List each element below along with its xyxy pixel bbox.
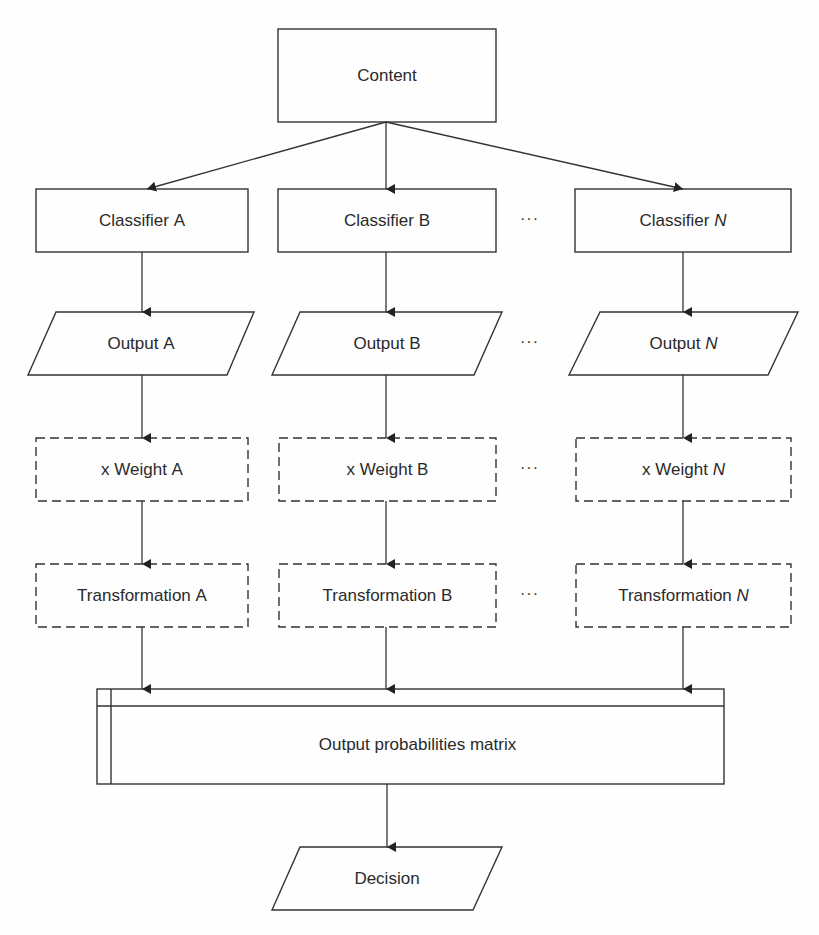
- diagram-shapes: [0, 0, 819, 935]
- ellipsis-classifiers: ···: [520, 210, 539, 228]
- arrow-content-to-n: [386, 122, 683, 189]
- weight-n-box: [576, 438, 791, 501]
- content-box: [278, 29, 496, 122]
- matrix-box: [97, 689, 724, 784]
- transformation-n-box: [576, 564, 791, 627]
- weight-a-box: [36, 438, 248, 501]
- transformation-b-box: [279, 564, 496, 627]
- output-n-shape: [569, 312, 798, 375]
- ellipsis-weights: ···: [520, 459, 539, 477]
- ellipsis-outputs: ···: [520, 333, 539, 351]
- weight-b-box: [279, 438, 496, 501]
- ellipsis-transformations: ···: [520, 585, 539, 603]
- classifier-b-box: [278, 189, 496, 252]
- flow-diagram: Content Classifier A Classifier B Classi…: [0, 0, 819, 935]
- classifier-a-box: [36, 189, 248, 252]
- transformation-a-box: [36, 564, 248, 627]
- output-b-shape: [272, 312, 502, 375]
- output-a-shape: [28, 312, 254, 375]
- classifier-n-box: [575, 189, 791, 252]
- decision-shape: [272, 847, 502, 910]
- arrow-content-to-a: [147, 122, 386, 189]
